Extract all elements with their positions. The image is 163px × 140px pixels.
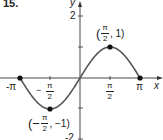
frac-den: 2 <box>42 124 46 133</box>
paren: ( <box>96 26 100 41</box>
point-pi <box>137 75 142 80</box>
point-max-x: π 2 <box>101 24 109 43</box>
point-max-label: ( π 2 , 1) <box>96 24 124 43</box>
point-min-x: π 2 <box>41 114 49 133</box>
y-tick-label-neg2: -2 <box>65 133 74 140</box>
point-min-y: , −1) <box>49 118 69 129</box>
x-tick-neg-sign: − <box>36 85 41 95</box>
x-tick-label-neg-pi: -π <box>6 82 16 92</box>
frac-num: π <box>41 114 49 124</box>
frac-den: 2 <box>103 34 107 43</box>
point-max-y: , 1) <box>110 28 124 39</box>
frac-den: 2 <box>108 92 112 101</box>
y-tick-label-2: 2 <box>70 11 76 21</box>
x-axis-label: x <box>154 81 159 91</box>
paren: (− <box>28 116 40 131</box>
y-axis-arrow-icon <box>78 1 82 7</box>
sine-graph <box>0 0 163 140</box>
point-min <box>47 106 52 111</box>
x-tick-label-pi: π <box>136 82 143 92</box>
point-max <box>107 44 112 49</box>
frac-num: π <box>106 82 114 92</box>
frac-den: 2 <box>48 92 52 101</box>
frac-num: π <box>101 24 109 34</box>
x-tick-label-neg-half-pi: π 2 <box>46 82 54 101</box>
point-neg-pi <box>17 75 22 80</box>
x-tick-label-half-pi: π 2 <box>106 82 114 101</box>
y-axis-label: y <box>70 0 75 8</box>
frac-num: π <box>46 82 54 92</box>
point-min-label: (− π 2 , −1) <box>28 114 70 133</box>
